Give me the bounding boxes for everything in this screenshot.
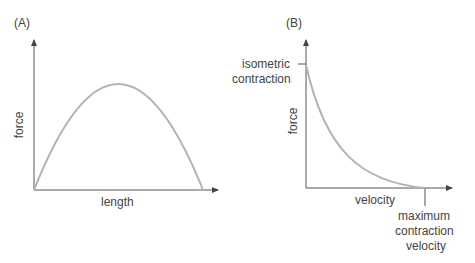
panel-a-axes bbox=[34, 40, 218, 190]
max-velocity-label-line3: velocity bbox=[406, 239, 446, 253]
isometric-label-line1: isometric bbox=[242, 57, 290, 71]
panel-b-ylabel: force bbox=[286, 108, 300, 135]
panel-b-xlabel: velocity bbox=[355, 193, 395, 207]
panel-a-curve bbox=[34, 84, 203, 190]
panel-a-ylabel: force bbox=[12, 112, 26, 139]
panel-a-tag: (A) bbox=[14, 16, 30, 30]
panel-b-curve bbox=[306, 65, 425, 188]
panel-a-xlabel: length bbox=[101, 195, 134, 209]
max-velocity-label-line2: contraction bbox=[395, 224, 454, 238]
isometric-label-line2: contraction bbox=[232, 72, 291, 86]
panel-b-axes bbox=[298, 40, 452, 206]
panel-b-tag: (B) bbox=[286, 16, 302, 30]
max-velocity-label-line1: maximum bbox=[398, 209, 450, 223]
